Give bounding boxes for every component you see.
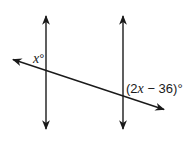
degree-symbol: ° bbox=[177, 81, 182, 96]
degree-symbol: ° bbox=[39, 51, 44, 66]
angle-label-x: x° bbox=[33, 52, 44, 66]
angle-label-2x-minus-36: (2x − 36)° bbox=[126, 82, 183, 96]
expr-rest: − 36) bbox=[144, 81, 178, 96]
expr-open: (2 bbox=[126, 81, 138, 96]
parallel-lines-transversal-diagram bbox=[0, 0, 196, 145]
